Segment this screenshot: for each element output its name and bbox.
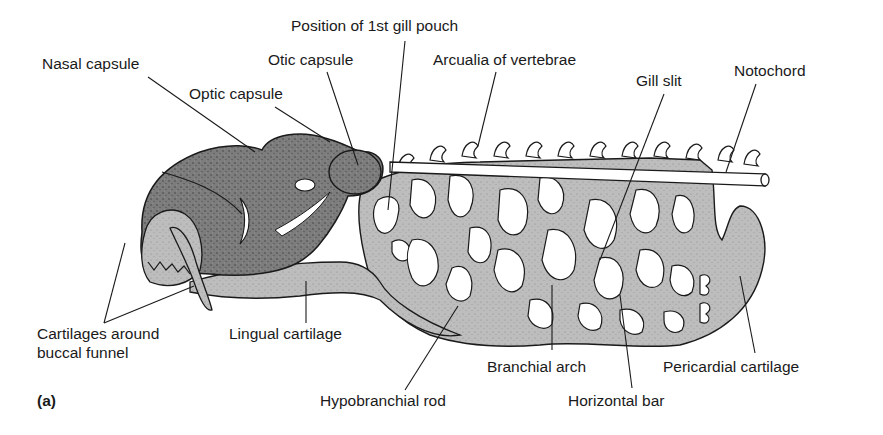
label-nasal-capsule: Nasal capsule <box>42 55 139 73</box>
label-horizontal-bar: Horizontal bar <box>568 392 665 410</box>
label-branchial-arch: Branchial arch <box>487 358 586 376</box>
label-lingual-cartilage: Lingual cartilage <box>229 325 342 343</box>
label-notochord: Notochord <box>734 62 806 80</box>
label-gill-slit: Gill slit <box>636 72 682 90</box>
label-optic-capsule: Optic capsule <box>189 85 283 103</box>
label-buccal-line2: buccal funnel <box>37 344 128 362</box>
label-arcualia: Arcualia of vertebrae <box>433 51 576 69</box>
label-otic-capsule: Otic capsule <box>268 51 353 69</box>
panel-label: (a) <box>37 392 56 410</box>
label-first-gill-pouch: Position of 1st gill pouch <box>291 17 458 35</box>
lamprey-skeleton-diagram: Nasal capsule Optic capsule Otic capsule… <box>0 0 883 435</box>
label-hypobranchial-rod: Hypobranchial rod <box>320 392 446 410</box>
label-buccal-line1: Cartilages around <box>37 325 159 343</box>
label-pericardial-cartilage: Pericardial cartilage <box>663 358 799 376</box>
